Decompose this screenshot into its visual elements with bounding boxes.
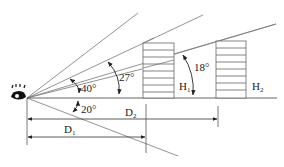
angle-label-27: 27° [119, 71, 134, 83]
sight-line-down-20deg [27, 98, 178, 156]
distance-label-d2: D2 [125, 106, 137, 120]
angle-label-18: 18° [194, 61, 209, 73]
height-label-h1: H1 [179, 80, 191, 94]
angle-label-20: 20° [81, 103, 96, 115]
building-h1 [143, 43, 174, 98]
distance-label-d1: D1 [64, 123, 76, 137]
eye-icon [11, 84, 26, 100]
arc-27deg [108, 62, 119, 94]
height-label-h2: H2 [252, 80, 264, 94]
building-h2 [216, 41, 246, 98]
sight-angle-diagram: 40° 27° 18° 20° H1 H2 D2 D1 [0, 0, 284, 167]
arc-20deg [73, 101, 78, 112]
sight-line-27deg [27, 15, 203, 98]
angle-label-40: 40° [81, 82, 96, 94]
